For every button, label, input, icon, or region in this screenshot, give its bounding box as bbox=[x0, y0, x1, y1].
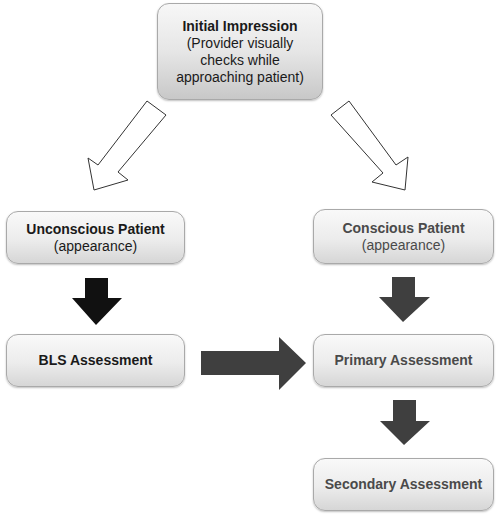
node-title: BLS Assessment bbox=[39, 352, 153, 369]
node-unconscious-patient: Unconscious Patient (appearance) bbox=[6, 211, 185, 264]
node-secondary-assessment: Secondary Assessment bbox=[313, 458, 494, 511]
node-line: approaching patient) bbox=[176, 69, 304, 86]
down-arrow-to-secondary bbox=[380, 400, 430, 445]
node-title: Unconscious Patient bbox=[26, 221, 164, 238]
node-conscious-patient: Conscious Patient (appearance) bbox=[313, 209, 494, 264]
node-title: Initial Impression bbox=[182, 18, 297, 35]
node-subtitle: (appearance) bbox=[54, 238, 137, 255]
down-arrow-to-bls bbox=[72, 278, 122, 325]
node-bls-assessment: BLS Assessment bbox=[6, 334, 185, 387]
right-arrow-bls-to-primary bbox=[201, 337, 306, 390]
hollow-arrow-to-conscious bbox=[331, 101, 408, 190]
node-title: Conscious Patient bbox=[342, 220, 464, 237]
node-primary-assessment: Primary Assessment bbox=[313, 334, 494, 387]
down-arrow-to-primary bbox=[379, 277, 430, 322]
hollow-arrow-to-unconscious bbox=[88, 101, 166, 190]
node-initial-impression: Initial Impression (Provider visually ch… bbox=[157, 3, 323, 100]
node-line: checks while bbox=[200, 52, 279, 69]
node-title: Primary Assessment bbox=[334, 352, 472, 369]
node-title: Secondary Assessment bbox=[325, 476, 482, 493]
node-subtitle: (appearance) bbox=[362, 237, 445, 254]
node-line: (Provider visually bbox=[187, 35, 294, 52]
